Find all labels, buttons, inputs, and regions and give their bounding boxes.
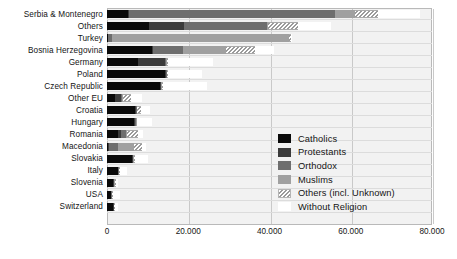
bar-segment-norelig[interactable] xyxy=(113,191,120,199)
bar-segment-orthodox[interactable] xyxy=(129,10,335,18)
category-label: Bosnia Herzegovina xyxy=(0,44,103,56)
bar-segment-norelig[interactable] xyxy=(142,143,146,151)
stacked-bar[interactable] xyxy=(107,167,127,175)
stacked-bar[interactable] xyxy=(107,10,420,18)
legend-item[interactable]: Protestants xyxy=(278,146,395,160)
bar-row xyxy=(107,32,432,44)
legend-item[interactable]: Catholics xyxy=(278,132,395,146)
bar-row xyxy=(107,44,432,56)
stacked-bar[interactable] xyxy=(107,191,120,199)
legend-swatch-catholics xyxy=(278,134,291,143)
bar-segment-catholics[interactable] xyxy=(107,130,118,138)
legend-label: Catholics xyxy=(298,134,337,144)
category-axis-labels: Serbia & MontenegroOthersTurkeyBosnia He… xyxy=(0,8,103,225)
legend-label: Without Religion xyxy=(298,202,367,212)
stacked-bar[interactable] xyxy=(107,34,292,42)
bar-segment-catholics[interactable] xyxy=(107,94,115,102)
category-label: Serbia & Montenegro xyxy=(0,8,103,20)
bar-segment-others[interactable] xyxy=(355,10,378,18)
bar-segment-orthodox[interactable] xyxy=(184,22,267,30)
bar-segment-protestants[interactable] xyxy=(138,58,165,66)
legend-label: Orthodox xyxy=(298,161,337,171)
stacked-bar[interactable] xyxy=(107,22,331,30)
legend-swatch-protestants xyxy=(278,148,291,157)
bar-segment-norelig[interactable] xyxy=(135,155,148,163)
bar-segment-muslims[interactable] xyxy=(118,143,134,151)
legend-item[interactable]: Without Religion xyxy=(278,200,395,214)
bar-segment-orthodox[interactable] xyxy=(109,143,118,151)
stacked-bar[interactable] xyxy=(107,46,274,54)
legend-swatch-others xyxy=(278,189,291,198)
legend-swatch-orthodox xyxy=(278,161,291,170)
stacked-bar[interactable] xyxy=(107,82,207,90)
bar-segment-norelig[interactable] xyxy=(120,167,127,175)
legend-item[interactable]: Muslims xyxy=(278,173,395,187)
legend-item[interactable]: Orthodox xyxy=(278,159,395,173)
x-axis-tick-label: 80.000 xyxy=(419,227,444,236)
bar-segment-protestants[interactable] xyxy=(149,22,184,30)
stacked-bar[interactable] xyxy=(107,106,150,114)
bar-segment-norelig[interactable] xyxy=(168,70,203,78)
bar-segment-catholics[interactable] xyxy=(107,167,118,175)
bar-row xyxy=(107,92,432,104)
bar-segment-others[interactable] xyxy=(268,22,298,30)
bar-segment-catholics[interactable] xyxy=(107,118,134,126)
bar-segment-norelig[interactable] xyxy=(115,203,118,211)
category-label: Romania xyxy=(0,128,103,140)
stacked-bar[interactable] xyxy=(107,203,118,211)
bar-segment-catholics[interactable] xyxy=(107,70,165,78)
bar-segment-others[interactable] xyxy=(134,143,143,151)
stacked-bar[interactable] xyxy=(107,155,148,163)
bar-segment-catholics[interactable] xyxy=(107,10,128,18)
bar-segment-others[interactable] xyxy=(127,130,138,138)
bar-segment-catholics[interactable] xyxy=(107,106,135,114)
category-label: Czech Republic xyxy=(0,80,103,92)
bar-segment-catholics[interactable] xyxy=(107,22,149,30)
category-label: Other EU xyxy=(0,92,103,104)
stacked-bar[interactable] xyxy=(107,58,213,66)
bar-segment-catholics[interactable] xyxy=(107,46,152,54)
bar-segment-norelig[interactable] xyxy=(255,46,274,54)
category-label: Others xyxy=(0,20,103,32)
category-label: Turkey xyxy=(0,32,103,44)
bar-segment-catholics[interactable] xyxy=(107,82,160,90)
bar-segment-others[interactable] xyxy=(226,46,255,54)
bar-segment-muslims[interactable] xyxy=(183,46,226,54)
x-axis-tick-label: 40.000 xyxy=(257,227,282,236)
bar-row xyxy=(107,8,432,20)
stacked-bar[interactable] xyxy=(107,179,118,187)
legend-label: Muslims xyxy=(298,175,333,185)
bar-segment-muslims[interactable] xyxy=(335,10,355,18)
stacked-bar[interactable] xyxy=(107,94,142,102)
legend-item[interactable]: Others (incl. Unknown) xyxy=(278,186,395,200)
bar-segment-norelig[interactable] xyxy=(141,106,151,114)
gridline xyxy=(433,9,434,224)
stacked-bar[interactable] xyxy=(107,130,143,138)
bar-segment-others[interactable] xyxy=(123,94,131,102)
bar-segment-catholics[interactable] xyxy=(107,58,138,66)
bar-segment-norelig[interactable] xyxy=(163,82,207,90)
bar-segment-catholics[interactable] xyxy=(107,155,132,163)
legend-swatch-muslims xyxy=(278,175,291,184)
bar-row xyxy=(107,80,432,92)
category-label: USA xyxy=(0,189,103,201)
stacked-bar[interactable] xyxy=(107,118,152,126)
category-label: Slovenia xyxy=(0,177,103,189)
bar-segment-orthodox[interactable] xyxy=(153,46,183,54)
x-axis-tick-label: 0 xyxy=(105,227,110,236)
bar-row xyxy=(107,104,432,116)
bar-segment-norelig[interactable] xyxy=(137,118,152,126)
bar-segment-norelig[interactable] xyxy=(378,10,420,18)
category-label: Macedonia xyxy=(0,141,103,153)
bar-row xyxy=(107,116,432,128)
bar-segment-norelig[interactable] xyxy=(116,179,118,187)
stacked-bar[interactable] xyxy=(107,70,202,78)
legend-label: Others (incl. Unknown) xyxy=(298,188,395,198)
stacked-bar[interactable] xyxy=(107,143,146,151)
bar-segment-norelig[interactable] xyxy=(291,34,292,42)
bar-segment-muslims[interactable] xyxy=(112,34,289,42)
bar-segment-norelig[interactable] xyxy=(138,130,143,138)
bar-segment-norelig[interactable] xyxy=(298,22,331,30)
bar-segment-norelig[interactable] xyxy=(131,94,142,102)
bar-segment-norelig[interactable] xyxy=(168,58,213,66)
